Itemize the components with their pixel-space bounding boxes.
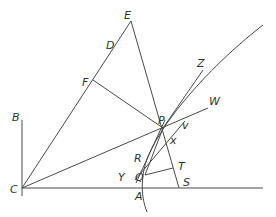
label-A: A [134, 190, 143, 203]
label-Y: Y [118, 171, 126, 184]
label-F: F [82, 76, 89, 89]
label-W: W [209, 95, 221, 108]
line-FP [93, 80, 163, 128]
line-CE [22, 21, 131, 188]
geometry-figure: E D F Z W P v x B R T Y Q C S A [0, 0, 276, 217]
label-S: S [183, 176, 190, 189]
label-C: C [10, 183, 18, 196]
label-R: R [134, 152, 142, 165]
label-Z: Z [196, 57, 205, 70]
line-QT [145, 168, 173, 175]
label-D: D [106, 39, 114, 52]
line-CW [22, 108, 208, 188]
label-T: T [178, 160, 186, 173]
label-v: v [182, 119, 189, 132]
label-Q: Q [135, 171, 144, 184]
label-B: B [12, 111, 20, 124]
label-x: x [169, 134, 177, 147]
label-P: P [158, 114, 165, 127]
line-QP [145, 128, 163, 175]
diagram: E D F Z W P v x B R T Y Q C S A [0, 0, 276, 217]
label-E: E [124, 9, 131, 22]
